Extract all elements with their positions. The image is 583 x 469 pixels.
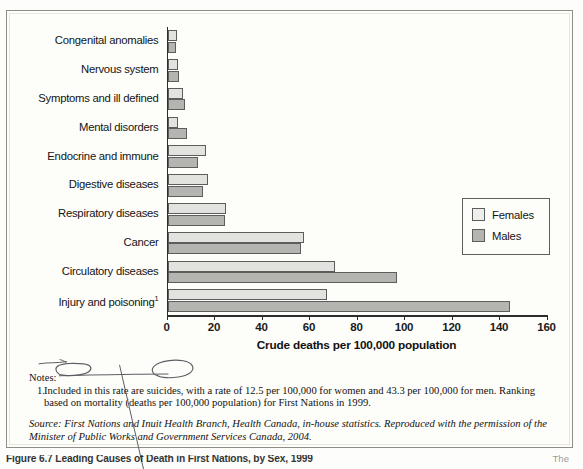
bar-males: [168, 71, 180, 82]
category-label: Cancer: [7, 236, 159, 248]
figure-caption-text: Figure 6.7 Leading Causes of Death in Fi…: [6, 455, 313, 464]
figure-caption: Figure 6.7 Leading Causes of Death in Fi…: [6, 455, 573, 469]
x-axis-tick-label: 160: [537, 321, 556, 333]
category-label: Injury and poisoning1: [7, 294, 159, 308]
bar-females: [168, 261, 335, 272]
bar-males: [168, 243, 301, 254]
x-axis-tick-label: 80: [350, 321, 362, 333]
x-axis-tick-label: 120: [442, 321, 461, 333]
legend-label-females: Females: [492, 209, 534, 221]
bar-females: [168, 59, 179, 70]
note-text: Included in this rate are suicides, with…: [44, 385, 553, 410]
bar-males: [168, 99, 186, 110]
note-number: 1.: [29, 385, 44, 410]
category-label: Symptoms and ill defined: [7, 92, 159, 104]
legend-swatch-females-icon: [472, 208, 485, 221]
bar-males: [168, 128, 187, 139]
bar-females: [168, 203, 226, 214]
category-label: Nervous system: [7, 63, 159, 75]
category-label: Congenital anomalies: [7, 34, 159, 46]
x-axis-tick: [262, 315, 263, 320]
bar-females: [168, 30, 178, 41]
x-axis-tick-label: 0: [163, 321, 169, 333]
bar-females: [168, 117, 179, 128]
x-axis-tick-label: 20: [208, 321, 220, 333]
x-axis-tick-label: 40: [255, 321, 267, 333]
bar-females: [168, 232, 305, 243]
bar-males: [168, 42, 176, 53]
x-axis-tick-label: 140: [490, 321, 509, 333]
notes-block: Notes: 1. Included in this rate are suic…: [29, 367, 553, 443]
bar-males: [168, 157, 199, 168]
category-label: Circulatory diseases: [7, 265, 159, 277]
bar-males: [168, 186, 204, 197]
category-label: Respiratory diseases: [7, 207, 159, 219]
x-axis-tick-label: 60: [303, 321, 315, 333]
x-axis-tick: [452, 315, 453, 320]
x-axis-tick: [167, 315, 168, 320]
figure-page: 020406080100120140160 Congenital anomali…: [0, 0, 583, 469]
category-label: Digestive diseases: [7, 178, 159, 190]
x-axis-tick: [499, 315, 500, 320]
category-label: Mental disorders: [7, 121, 159, 133]
chart-legend: Females Males: [462, 198, 550, 255]
bar-females: [168, 88, 183, 99]
category-footnote-mark: 1: [155, 294, 159, 303]
x-axis-tick: [309, 315, 310, 320]
figure-border-box: 020406080100120140160 Congenital anomali…: [6, 10, 573, 448]
bar-females: [168, 289, 327, 300]
category-label: Endocrine and immune: [7, 150, 159, 162]
notes-heading: Notes:: [29, 372, 56, 383]
x-axis-tick-label: 100: [395, 321, 414, 333]
legend-swatch-males-icon: [472, 229, 485, 242]
bar-females: [168, 174, 208, 185]
figure-caption-trailing: The: [552, 455, 569, 464]
x-axis-tick: [404, 315, 405, 320]
bar-females: [168, 145, 206, 156]
legend-label-males: Males: [492, 230, 521, 242]
note-item: 1. Included in this rate are suicides, w…: [29, 385, 553, 410]
source-credit: Source: First Nations and Inuit Health B…: [29, 417, 553, 443]
legend-item-males: Males: [472, 229, 521, 242]
bar-males: [168, 301, 510, 312]
x-axis-tick: [357, 315, 358, 320]
bar-males: [168, 272, 397, 283]
x-axis-tick: [214, 315, 215, 320]
legend-item-females: Females: [472, 208, 534, 221]
x-axis-title: Crude deaths per 100,000 population: [167, 338, 547, 352]
x-axis-tick: [547, 315, 548, 320]
bar-males: [168, 215, 225, 226]
